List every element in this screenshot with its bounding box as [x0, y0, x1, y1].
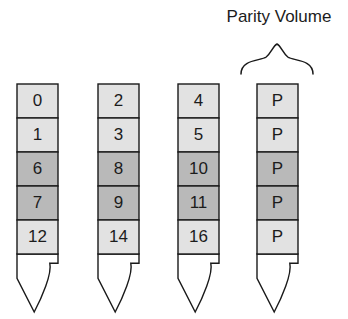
stripe-cell-label: 1: [33, 125, 42, 144]
stripe-cell-label: 9: [114, 193, 123, 212]
volume-column-4: PPPPP: [257, 84, 298, 312]
stripe-cell-label: P: [272, 227, 283, 246]
stripe-cell-label: 7: [33, 193, 42, 212]
diagram-title: Parity Volume: [227, 7, 332, 26]
stripe-cell-label: P: [272, 91, 283, 110]
stripe-cell-label: 0: [33, 91, 42, 110]
stripe-cell-label: 3: [114, 125, 123, 144]
stripe-cell-label: 4: [194, 91, 203, 110]
stripe-cell-label: 11: [190, 193, 208, 212]
brace-icon: [241, 44, 313, 74]
volume-column-3: 45101116: [178, 84, 219, 312]
diagram-canvas: Parity Volume 01671223891445101116PPPPP: [0, 0, 348, 319]
stripe-cell-label: 5: [194, 125, 203, 144]
stripe-cell-label: 6: [33, 159, 42, 178]
stripe-cell-label: 12: [28, 227, 47, 246]
stripe-cell-label: P: [272, 125, 283, 144]
stripe-cell-label: 10: [189, 159, 208, 178]
volume-column-2: 238914: [98, 84, 139, 312]
volume-nib: [257, 254, 298, 312]
stripe-cell-label: 8: [114, 159, 123, 178]
volume-nib: [98, 254, 139, 312]
stripe-cell-label: 2: [114, 91, 123, 110]
stripe-cell-label: P: [272, 159, 283, 178]
volume-column-1: 016712: [17, 84, 58, 312]
stripe-cell-label: P: [272, 193, 283, 212]
parity-brace: [241, 44, 313, 74]
volume-columns: 01671223891445101116PPPPP: [17, 84, 298, 312]
volume-nib: [17, 254, 58, 312]
volume-nib: [178, 254, 219, 312]
stripe-cell-label: 14: [109, 227, 128, 246]
stripe-cell-label: 16: [189, 227, 208, 246]
parity-volume-diagram: Parity Volume 01671223891445101116PPPPP: [0, 0, 348, 319]
